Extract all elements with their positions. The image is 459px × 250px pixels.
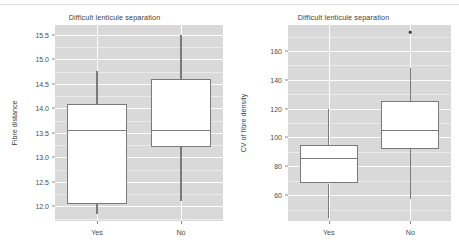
- gridline-minor: [55, 219, 223, 220]
- y-axis-tick-label: 14.5: [35, 80, 49, 87]
- gridline-major: [55, 35, 223, 36]
- whisker-lower: [180, 147, 181, 201]
- gridline-major: [288, 195, 451, 196]
- box-yes: [300, 145, 358, 184]
- gridline-minor: [288, 37, 451, 38]
- y-axis-tick-mark: [52, 108, 55, 109]
- whisker-lower: [328, 184, 329, 219]
- y-axis-tick-label: 60: [274, 192, 282, 199]
- y-axis-tick-mark: [285, 50, 288, 51]
- y-axis-tick-mark: [285, 79, 288, 80]
- whisker-lower: [96, 204, 97, 214]
- x-axis-tick-label-yes: Yes: [323, 228, 335, 237]
- y-axis-tick-mark: [52, 59, 55, 60]
- x-axis-tick-mark: [181, 221, 182, 224]
- y-axis-title-left: Fibre distance: [10, 100, 19, 145]
- median-line: [67, 130, 127, 131]
- median-line: [381, 130, 439, 131]
- gridline-minor: [55, 72, 223, 73]
- y-axis-title-right: CV of fibre density: [239, 94, 248, 153]
- y-axis-tick-label: 80: [274, 163, 282, 170]
- x-axis-tick-mark: [329, 221, 330, 224]
- x-axis-tick-mark: [97, 221, 98, 224]
- whisker-upper: [410, 68, 411, 101]
- y-axis-tick-label: 100: [270, 134, 282, 141]
- y-axis-tick-label: 12.0: [35, 203, 49, 210]
- gridline-major: [288, 51, 451, 52]
- y-axis-tick-mark: [52, 34, 55, 35]
- gridline-major: [55, 206, 223, 207]
- whisker-upper: [96, 71, 97, 104]
- box-yes: [67, 104, 127, 204]
- plot-area-right: [288, 25, 451, 221]
- outlier-point: [409, 31, 412, 34]
- panel-title-right: Difficult lenticule separation: [229, 13, 458, 22]
- y-axis-tick-label: 140: [270, 76, 282, 83]
- box-no: [151, 79, 211, 147]
- whisker-lower: [410, 149, 411, 199]
- x-axis-tick-mark: [410, 221, 411, 224]
- gridline-major: [288, 80, 451, 81]
- y-axis-tick-label: 15.5: [35, 31, 49, 38]
- x-axis-tick-label-yes: Yes: [91, 228, 103, 237]
- plot-area-left: [55, 25, 223, 221]
- whisker-upper: [328, 109, 329, 145]
- chart-panel-fibre-distance: Difficult lenticule separation Fibre dis…: [0, 0, 229, 250]
- gridline-minor: [288, 65, 451, 66]
- x-axis-tick-label-no: No: [406, 228, 415, 237]
- median-line: [300, 158, 358, 159]
- y-axis-tick-label: 13.0: [35, 154, 49, 161]
- x-axis-tick-label-no: No: [176, 228, 185, 237]
- gridline-minor: [288, 94, 451, 95]
- y-axis-tick-label: 160: [270, 47, 282, 54]
- median-line: [151, 130, 211, 131]
- y-axis-tick-mark: [52, 157, 55, 158]
- y-axis-tick-label: 15.0: [35, 56, 49, 63]
- y-axis-tick-mark: [285, 108, 288, 109]
- gridline-minor: [288, 210, 451, 211]
- panel-title-left: Difficult lenticule separation: [0, 13, 229, 22]
- y-axis-tick-mark: [52, 132, 55, 133]
- y-axis-tick-label: 12.5: [35, 178, 49, 185]
- y-axis-tick-mark: [285, 137, 288, 138]
- y-axis-tick-mark: [52, 181, 55, 182]
- chart-panel-cv-fibre-density: Difficult lenticule separation CV of fib…: [229, 0, 458, 250]
- y-axis-tick-label: 14.0: [35, 105, 49, 112]
- gridline-major: [55, 59, 223, 60]
- y-axis-tick-mark: [285, 166, 288, 167]
- y-axis-tick-label: 13.5: [35, 129, 49, 136]
- y-axis-tick-mark: [285, 195, 288, 196]
- box-no: [381, 101, 439, 149]
- y-axis-tick-mark: [52, 206, 55, 207]
- y-axis-tick-label: 120: [270, 105, 282, 112]
- whisker-upper: [180, 35, 181, 79]
- y-axis-tick-mark: [52, 83, 55, 84]
- gridline-minor: [55, 47, 223, 48]
